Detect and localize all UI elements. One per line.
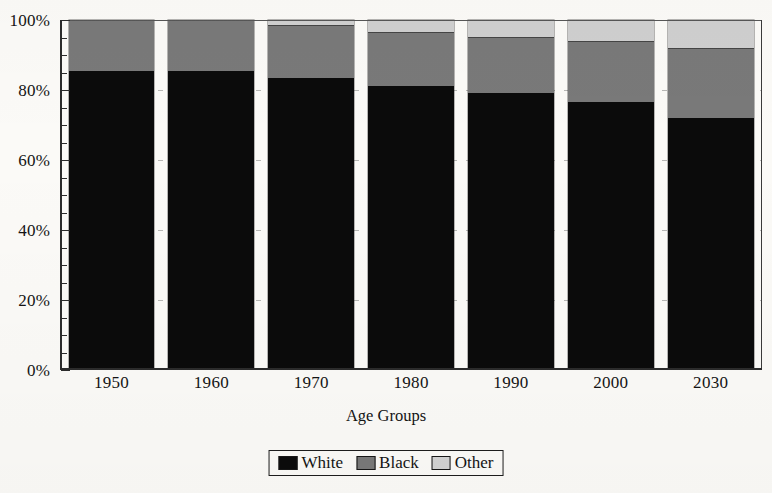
y-axis-minor-tick	[61, 283, 67, 284]
y-axis-minor-tick	[61, 73, 67, 74]
y-axis-major-tick	[61, 90, 70, 91]
y-axis-major-tick	[61, 370, 70, 371]
y-axis-tick-label: 100%	[10, 12, 50, 29]
stacked-bar	[368, 20, 454, 368]
y-axis-minor-tick	[61, 178, 67, 179]
legend-item-black: Black	[356, 454, 419, 471]
y-axis-tick-label: 40%	[18, 222, 50, 239]
bar-segment-black	[468, 37, 554, 93]
x-axis-tick-label: 2000	[561, 374, 661, 391]
x-axis-tick-label: 1960	[161, 374, 261, 391]
bar-slot	[62, 20, 162, 368]
x-axis-tick-label: 1970	[261, 374, 361, 391]
y-axis-minor-tick	[61, 248, 67, 249]
y-axis-minor-tick	[61, 143, 67, 144]
bar-segment-white	[168, 71, 254, 369]
bar-segment-black	[568, 41, 654, 102]
y-axis-tick-label: 20%	[18, 292, 50, 309]
x-axis-tick-label: 1980	[361, 374, 461, 391]
bar-segment-other	[468, 20, 554, 37]
y-axis-minor-tick	[61, 213, 67, 214]
bar-segment-white	[69, 71, 155, 369]
bar-segment-black	[268, 25, 354, 77]
plot-area	[60, 20, 762, 370]
y-axis-major-tick	[61, 160, 70, 161]
bar-slot	[261, 20, 361, 368]
stacked-bar	[168, 20, 254, 368]
y-axis-minor-tick	[61, 195, 67, 196]
y-axis-minor-tick	[61, 318, 67, 319]
stacked-bar	[69, 20, 155, 368]
x-axis-title: Age Groups	[0, 406, 772, 426]
bar-segment-other	[568, 20, 654, 41]
legend-label: White	[302, 454, 344, 471]
y-axis-minor-tick	[61, 353, 67, 354]
bar-segment-black	[69, 20, 155, 71]
stacked-bar	[268, 20, 354, 368]
x-axis-labels: 1950196019701980199020002030	[62, 374, 761, 391]
x-axis-line	[60, 368, 762, 370]
bar-slot	[661, 20, 761, 368]
stacked-bar-chart: 100% 80% 60% 40% 20% 0% 1950196019701980…	[0, 0, 772, 493]
y-axis-major-tick	[61, 20, 70, 21]
bar-slot	[361, 20, 461, 368]
legend-item-white: White	[279, 454, 344, 471]
plot-frame-top	[60, 20, 762, 21]
stacked-bar	[568, 20, 654, 368]
stacked-bar	[668, 20, 754, 368]
y-axis-minor-tick	[61, 55, 67, 56]
y-axis-minor-tick	[61, 125, 67, 126]
x-axis-tick-label: 1990	[461, 374, 561, 391]
bar-segment-white	[668, 118, 754, 369]
bar-segment-black	[168, 20, 254, 71]
x-axis-tick-label: 1950	[62, 374, 162, 391]
y-axis-minor-tick	[61, 265, 67, 266]
y-axis-minor-tick	[61, 108, 67, 109]
bar-group	[62, 20, 761, 368]
legend-label: Other	[455, 454, 494, 471]
bar-slot	[161, 20, 261, 368]
bar-segment-other	[368, 20, 454, 32]
y-axis-tick-label: 60%	[18, 152, 50, 169]
other-swatch-icon	[432, 456, 451, 470]
y-axis-minor-tick	[61, 38, 67, 39]
y-axis-major-tick	[61, 300, 70, 301]
legend-item-other: Other	[432, 454, 494, 471]
bar-slot	[561, 20, 661, 368]
white-swatch-icon	[279, 456, 298, 470]
bar-segment-white	[468, 93, 554, 368]
bar-segment-black	[368, 32, 454, 86]
legend-label: Black	[379, 454, 419, 471]
stacked-bar	[468, 20, 554, 368]
bar-segment-black	[668, 48, 754, 118]
bar-segment-white	[368, 86, 454, 368]
plot-frame-right	[761, 20, 762, 370]
bar-segment-white	[568, 102, 654, 369]
bar-slot	[461, 20, 561, 368]
bar-segment-white	[268, 78, 354, 369]
y-axis-minor-tick	[61, 335, 67, 336]
y-axis-tick-label: 0%	[27, 362, 50, 379]
black-swatch-icon	[356, 456, 375, 470]
chart-legend: White Black Other	[269, 450, 504, 476]
y-axis-major-tick	[61, 230, 70, 231]
bar-segment-other	[668, 20, 754, 48]
x-axis-tick-label: 2030	[661, 374, 761, 391]
y-axis-tick-label: 80%	[18, 82, 50, 99]
